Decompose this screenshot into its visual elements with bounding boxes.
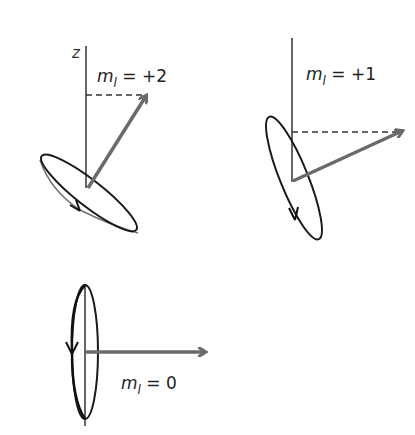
- precession-ellipse-thick-front: [40, 160, 138, 233]
- quantum-number-label-plus-2: ml = +2: [97, 68, 167, 85]
- angular-momentum-vector: [293, 131, 402, 181]
- m-symbol: m: [306, 64, 323, 84]
- quantum-number-label-plus-1: ml = +1: [306, 66, 376, 83]
- l-subscript: l: [114, 76, 117, 90]
- l-subscript: l: [323, 74, 326, 88]
- z-axis-label: z: [72, 44, 80, 62]
- m-symbol: m: [97, 66, 114, 86]
- value: +1: [351, 64, 376, 84]
- precession-ellipse: [34, 146, 145, 240]
- m-symbol: m: [121, 373, 138, 393]
- angular-momentum-vector: [88, 96, 146, 188]
- equals-sign: =: [122, 66, 136, 86]
- value: 0: [166, 373, 177, 393]
- orbital-angular-momentum-diagram: z ml = +2 ml = +1 ml = 0: [0, 0, 415, 435]
- value: +2: [142, 66, 167, 86]
- equals-sign: =: [331, 64, 345, 84]
- l-subscript: l: [138, 383, 141, 397]
- equals-sign: =: [146, 373, 160, 393]
- quantum-number-label-0: ml = 0: [121, 375, 177, 392]
- panel-ml-0: [66, 284, 205, 426]
